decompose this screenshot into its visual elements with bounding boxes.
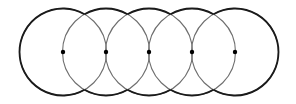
center-dot-2 (104, 50, 108, 54)
center-dot-3 (147, 50, 151, 54)
outer-arc-bottom-3 (128, 90, 171, 96)
outer-arc-bottom-5 (214, 52, 279, 96)
center-dot-1 (61, 50, 65, 54)
overlapping-circles-diagram (0, 0, 296, 104)
outer-arc-bottom-1 (20, 52, 85, 96)
outer-arc-top-2 (85, 8, 128, 14)
outer-arc-bottom-4 (171, 90, 214, 96)
outer-arc-top-4 (171, 9, 214, 15)
center-dots-group (61, 50, 237, 54)
outer-arc-top-3 (128, 9, 171, 15)
outer-arc-top-5 (214, 8, 279, 52)
outer-arc-top-1 (20, 8, 85, 52)
center-dot-5 (233, 50, 237, 54)
outer-arc-bottom-2 (85, 90, 128, 96)
center-dot-4 (190, 50, 194, 54)
